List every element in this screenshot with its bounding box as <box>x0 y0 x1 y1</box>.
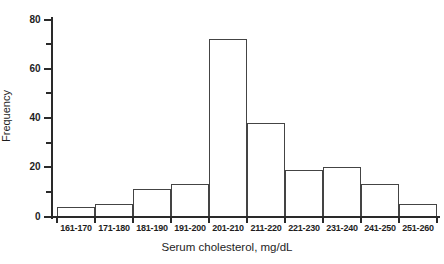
y-tick-label: 0 <box>11 211 41 223</box>
y-major-tick <box>44 117 51 119</box>
x-tick <box>132 218 134 223</box>
x-axis-title: Serum cholesterol, mg/dL <box>107 241 347 253</box>
x-tick <box>436 218 438 223</box>
y-tick-label: 40 <box>11 112 41 124</box>
x-tick <box>56 218 58 223</box>
histogram-bar <box>133 189 171 217</box>
y-major-tick <box>44 166 51 168</box>
histogram-bar <box>247 123 285 218</box>
histogram-bar <box>323 167 361 217</box>
x-tick <box>284 218 286 223</box>
y-axis-line <box>51 17 54 219</box>
x-tick <box>208 218 210 223</box>
x-axis-line <box>51 216 441 219</box>
x-tick-label: 251-260 <box>396 223 440 234</box>
y-major-tick <box>44 216 51 218</box>
y-major-tick <box>44 19 51 21</box>
y-major-tick <box>44 68 51 70</box>
y-tick-label: 20 <box>11 161 41 173</box>
y-tick-label: 60 <box>11 63 41 75</box>
x-tick <box>360 218 362 223</box>
histogram-bar <box>285 170 323 218</box>
x-tick <box>322 218 324 223</box>
histogram-figure: Frequency Serum cholesterol, mg/dL 02040… <box>0 0 444 264</box>
x-tick <box>94 218 96 223</box>
x-tick <box>398 218 400 223</box>
histogram-bar <box>171 184 209 217</box>
y-tick-label: 80 <box>11 14 41 26</box>
x-tick <box>246 218 248 223</box>
histogram-bar <box>361 184 399 217</box>
histogram-bar <box>209 39 247 217</box>
x-tick <box>170 218 172 223</box>
